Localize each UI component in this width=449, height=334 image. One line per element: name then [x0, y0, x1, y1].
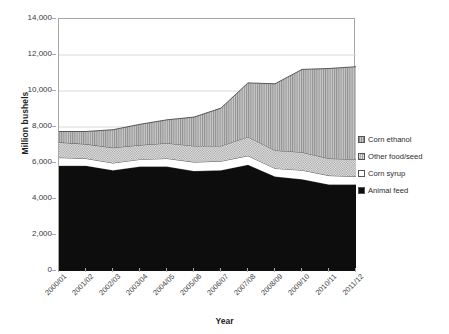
legend-item-corn-syrup[interactable]: Corn syrup	[358, 167, 449, 180]
legend-item-other-food-seed[interactable]: Other food/seed	[358, 150, 449, 163]
plot-area	[58, 18, 355, 270]
y-tick-label: 12,000	[6, 50, 52, 58]
y-tick-label: 8,000	[6, 122, 52, 130]
legend-swatch-icon	[358, 136, 365, 143]
y-tick-label: 0	[6, 266, 52, 274]
y-tick-mark	[52, 198, 56, 199]
legend-label: Animal feed	[368, 186, 408, 195]
stacked-area-plot	[59, 19, 356, 271]
legend-label: Corn syrup	[368, 169, 405, 178]
legend-item-corn-ethanol[interactable]: Corn ethanol	[358, 133, 449, 146]
legend-item-animal-feed[interactable]: Animal feed	[358, 184, 449, 197]
x-tick-mark	[85, 268, 86, 272]
area-series-group	[59, 67, 356, 271]
x-tick-mark	[139, 268, 140, 272]
x-tick-mark	[328, 268, 329, 272]
x-axis-tick-labels: 2000/012001/022002/032003/042004/052005/…	[58, 272, 355, 314]
legend-swatch-icon	[358, 153, 365, 160]
y-tick-label: 6,000	[6, 158, 52, 166]
y-tick-label: 14,000	[6, 14, 52, 22]
x-tick-mark	[58, 268, 59, 272]
y-tick-label: 4,000	[6, 194, 52, 202]
y-tick-mark	[52, 234, 56, 235]
legend-label: Corn ethanol	[368, 135, 411, 144]
x-tick-mark	[166, 268, 167, 272]
x-tick-mark	[355, 268, 356, 272]
x-tick-mark	[301, 268, 302, 272]
x-tick-mark	[247, 268, 248, 272]
y-tick-mark	[52, 90, 56, 91]
y-tick-mark	[52, 18, 56, 19]
y-tick-label: 10,000	[6, 86, 52, 94]
x-tick-mark	[193, 268, 194, 272]
x-axis-title: Year	[0, 316, 449, 326]
y-tick-mark	[52, 270, 56, 271]
legend-swatch-icon	[358, 187, 365, 194]
y-tick-mark	[52, 162, 56, 163]
chart-legend: Corn ethanolOther food/seedCorn syrupAni…	[358, 133, 449, 201]
legend-label: Other food/seed	[368, 152, 422, 161]
x-tick-mark	[274, 268, 275, 272]
x-tick-mark	[112, 268, 113, 272]
y-tick-label: 2,000	[6, 230, 52, 238]
y-axis-tick-labels: 14,00012,00010,0008,0006,0004,0002,0000	[4, 0, 52, 334]
legend-swatch-icon	[358, 170, 365, 177]
y-tick-mark	[52, 126, 56, 127]
x-tick-mark	[220, 268, 221, 272]
chart-figure: Million bushels 14,00012,00010,0008,0006…	[0, 0, 449, 334]
y-tick-mark	[52, 54, 56, 55]
